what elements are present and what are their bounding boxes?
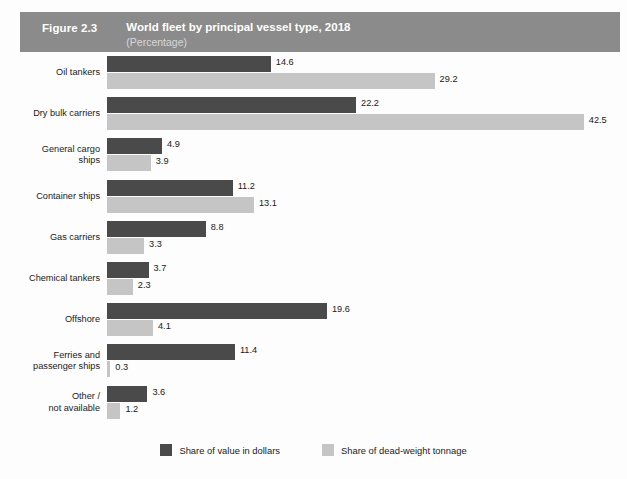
chart-bar — [107, 303, 327, 319]
chart-bar — [107, 386, 147, 402]
category-label-line: Gas carriers — [50, 232, 100, 244]
legend-swatch-icon — [160, 444, 172, 456]
figure-number: Figure 2.3 — [42, 22, 97, 34]
bar-value-label: 3.3 — [149, 239, 162, 249]
chart-bar — [107, 73, 435, 89]
chart-bar-row: 3.9 — [107, 155, 627, 171]
category-label-line: passenger ships — [33, 361, 100, 373]
legend-swatch-icon — [322, 444, 334, 456]
chart-bar — [107, 279, 133, 295]
category-axis-label: General cargoships — [0, 138, 100, 172]
bar-value-label: 0.3 — [115, 362, 128, 372]
chart-bar — [107, 155, 151, 171]
chart-bar-row: 14.6 — [107, 56, 627, 72]
category-axis-label: Oil tankers — [0, 56, 100, 90]
bar-value-label: 19.6 — [332, 304, 350, 314]
chart-bar-row: 1.2 — [107, 403, 627, 419]
chart-bar-row: 42.5 — [107, 114, 627, 130]
chart-bar — [107, 238, 144, 254]
bar-value-label: 11.2 — [238, 181, 255, 191]
bar-value-label: 4.9 — [167, 139, 180, 149]
chart-category-group: Dry bulk carriers22.242.5 — [0, 97, 627, 131]
chart-bar — [107, 320, 153, 336]
legend-item-value_in_dollars[interactable]: Share of value in dollars — [160, 444, 280, 456]
chart-bar-row: 2.3 — [107, 279, 627, 295]
category-axis-label: Container ships — [0, 180, 100, 214]
chart-bar-row: 13.1 — [107, 197, 627, 213]
category-axis-label: Chemical tankers — [0, 262, 100, 296]
chart-bar-row: 11.2 — [107, 180, 627, 196]
chart-bar — [107, 403, 120, 419]
bar-value-label: 42.5 — [589, 115, 607, 125]
category-axis-label: Ferries andpassenger ships — [0, 344, 100, 378]
bar-value-label: 13.1 — [259, 198, 277, 208]
chart-bar — [107, 138, 162, 154]
category-label-line: Other / — [72, 391, 100, 403]
category-axis-label: Other /not available — [0, 386, 100, 420]
chart-bar-row: 29.2 — [107, 73, 627, 89]
chart-category-group: Other /not available3.61.2 — [0, 386, 627, 420]
chart-bar-row: 4.1 — [107, 320, 627, 336]
chart-bar-row: 22.2 — [107, 97, 627, 113]
figure-title-block: World fleet by principal vessel type, 20… — [126, 20, 350, 49]
chart-bar — [107, 344, 235, 360]
figure-subtitle: (Percentage) — [126, 35, 350, 49]
category-label-line: Chemical tankers — [29, 273, 100, 285]
category-label-line: General cargo — [42, 144, 100, 156]
chart-bar — [107, 221, 206, 237]
bar-value-label: 11.4 — [240, 345, 257, 355]
chart-bar — [107, 197, 254, 213]
chart-bar — [107, 114, 584, 130]
category-label-line: Container ships — [36, 191, 100, 203]
chart-category-group: Oil tankers14.629.2 — [0, 56, 627, 90]
category-label-line: Offshore — [65, 314, 100, 326]
chart-bar-row: 0.3 — [107, 361, 627, 377]
bar-value-label: 14.6 — [276, 57, 294, 67]
bar-value-label: 3.7 — [154, 263, 167, 273]
chart-category-group: Container ships11.213.1 — [0, 180, 627, 214]
figure-container: Figure 2.3 World fleet by principal vess… — [0, 0, 627, 479]
chart-bar-row: 3.6 — [107, 386, 627, 402]
legend-item-dead_weight_tonnage[interactable]: Share of dead-weight tonnage — [322, 444, 467, 456]
chart-category-group: Ferries andpassenger ships11.40.3 — [0, 344, 627, 378]
chart-legend: Share of value in dollarsShare of dead-w… — [0, 444, 627, 456]
chart-bar-row: 3.3 — [107, 238, 627, 254]
category-axis-label: Dry bulk carriers — [0, 97, 100, 131]
chart-category-group: Offshore19.64.1 — [0, 303, 627, 337]
chart-bar — [107, 56, 271, 72]
legend-label: Share of dead-weight tonnage — [341, 445, 467, 456]
chart-plot-area: Oil tankers14.629.2Dry bulk carriers22.2… — [0, 56, 627, 436]
category-axis-label: Gas carriers — [0, 221, 100, 255]
bar-value-label: 1.2 — [125, 404, 138, 414]
chart-category-group: Chemical tankers3.72.3 — [0, 262, 627, 296]
chart-category-group: Gas carriers8.83.3 — [0, 221, 627, 255]
figure-header-band: Figure 2.3 World fleet by principal vess… — [20, 12, 620, 52]
bar-value-label: 29.2 — [440, 74, 458, 84]
chart-category-group: General cargoships4.93.9 — [0, 138, 627, 172]
legend-label: Share of value in dollars — [179, 445, 280, 456]
chart-bar — [107, 361, 110, 377]
category-label-line: Dry bulk carriers — [33, 108, 100, 120]
bar-value-label: 3.9 — [156, 156, 169, 166]
chart-bar-row: 8.8 — [107, 221, 627, 237]
chart-bar — [107, 97, 356, 113]
chart-bar-row: 3.7 — [107, 262, 627, 278]
chart-bar — [107, 262, 149, 278]
chart-bar — [107, 180, 233, 196]
category-label-line: ships — [79, 155, 100, 167]
category-label-line: Oil tankers — [56, 67, 100, 79]
bar-value-label: 4.1 — [158, 321, 171, 331]
bar-value-label: 8.8 — [211, 222, 224, 232]
bar-value-label: 3.6 — [152, 387, 165, 397]
category-axis-label: Offshore — [0, 303, 100, 337]
category-label-line: Ferries and — [54, 350, 100, 362]
chart-bar-row: 19.6 — [107, 303, 627, 319]
chart-bar-row: 4.9 — [107, 138, 627, 154]
page-title: World fleet by principal vessel type, 20… — [126, 20, 350, 35]
bar-value-label: 2.3 — [138, 280, 151, 290]
chart-bar-row: 11.4 — [107, 344, 627, 360]
category-label-line: not available — [48, 403, 100, 415]
bar-value-label: 22.2 — [361, 98, 379, 108]
